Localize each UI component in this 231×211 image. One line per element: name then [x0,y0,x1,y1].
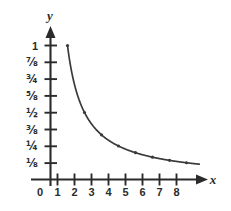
data-point-markers [66,44,188,164]
graph-figure: x y 0 1 2 3 4 5 6 7 8 1 [0,0,231,211]
y-tick-label: ½ [26,106,38,120]
x-tick-label: 5 [122,186,128,198]
y-tick-label: ⅞ [26,55,38,69]
x-tick-group: 1 2 3 4 5 6 7 8 [54,174,179,199]
y-tick-label: ⅝ [26,89,38,103]
x-axis-label: x [209,172,217,187]
data-point [117,144,120,147]
y-tick-label: 1 [32,40,38,52]
y-tick-label: ⅛ [26,156,38,170]
y-tick-label: ¼ [26,139,38,153]
y-tick-label: ⅜ [26,123,38,137]
data-point [83,111,86,114]
x-tick-label: 6 [139,186,145,198]
y-axis-arrow-icon [46,26,56,38]
x-tick-label: 4 [105,186,112,198]
y-tick-group: 1 ⅞ ¾ ⅝ ½ ⅜ ¼ ⅛ [26,40,57,171]
data-point [66,44,69,47]
data-point [151,156,154,159]
x-tick-label: 7 [156,186,162,198]
origin-label: 0 [37,186,43,198]
data-point [100,133,103,136]
x-tick-label: 3 [88,186,94,198]
data-point [134,151,137,154]
data-point [168,159,171,162]
x-tick-label: 2 [71,186,77,198]
coordinate-plane: x y 0 1 2 3 4 5 6 7 8 1 [0,0,231,211]
x-tick-label: 8 [173,186,179,198]
data-point [185,161,188,164]
reciprocal-curve [68,46,200,165]
y-axis-label: y [45,8,53,23]
y-tick-label: ¾ [26,72,38,86]
x-axis-arrow-icon [196,175,208,185]
x-tick-label: 1 [54,186,60,198]
